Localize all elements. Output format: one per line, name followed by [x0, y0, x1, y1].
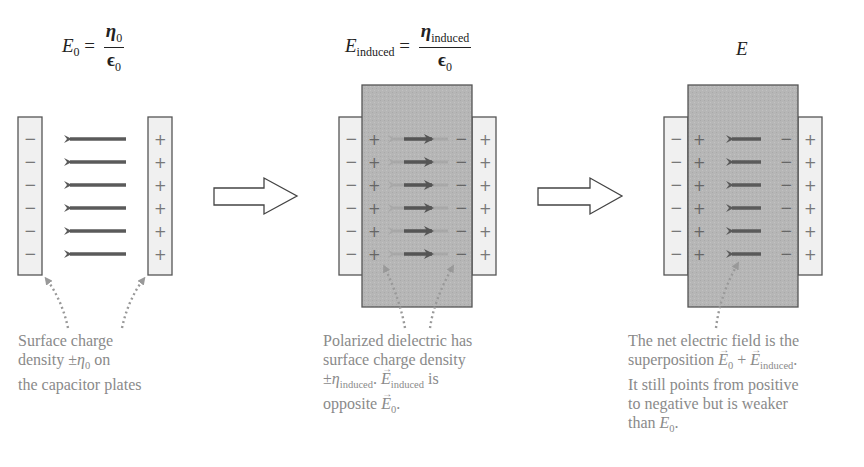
panel-induced: −−− −−− +++ +++ +++ +++ −−− −−−	[339, 85, 496, 328]
svg-text:+: +	[368, 131, 381, 149]
svg-text:−: −	[455, 153, 468, 171]
svg-text:−: −	[345, 245, 358, 263]
svg-text:−: −	[670, 153, 683, 171]
formula-e-induced: Einduced = ηinduced ϵ0	[345, 20, 471, 75]
svg-text:−: −	[24, 176, 37, 194]
svg-text:+: +	[479, 246, 492, 264]
svg-text:+: +	[154, 246, 167, 264]
svg-text:+: +	[479, 154, 492, 172]
svg-text:+: +	[154, 200, 167, 218]
panel-net: −−− −−− +++ +++ +++ +++ −−− −−−	[664, 85, 822, 328]
svg-text:−: −	[670, 222, 683, 240]
fraction: ηinduced ϵ0	[419, 20, 471, 75]
dielectric-slab	[688, 85, 798, 307]
panel-vacuum: −−− −−− +++ +++	[18, 117, 172, 328]
caption-vacuum: Surface charge density ±η0 on the capaci…	[18, 331, 142, 394]
svg-text:+: +	[154, 131, 167, 149]
svg-text:+: +	[804, 131, 817, 149]
transition-arrow-icon	[214, 178, 297, 214]
svg-text:+: +	[368, 177, 381, 195]
svg-text:+: +	[804, 200, 817, 218]
svg-text:+: +	[693, 200, 706, 218]
svg-text:+: +	[368, 246, 381, 264]
svg-text:−: −	[780, 176, 793, 194]
caption-net: The net electric field is the superposit…	[628, 331, 799, 438]
svg-text:+: +	[693, 154, 706, 172]
field-arrows-e0	[70, 139, 126, 254]
svg-text:−: −	[24, 130, 37, 148]
svg-text:−: −	[455, 130, 468, 148]
dielectric-slab	[362, 85, 472, 307]
svg-text:+: +	[693, 223, 706, 241]
caption-induced: Polarized dielectric has surface charge …	[323, 331, 472, 419]
formula-e-net: E	[736, 38, 748, 60]
svg-text:−: −	[345, 222, 358, 240]
svg-text:−: −	[780, 199, 793, 217]
svg-text:−: −	[455, 245, 468, 263]
svg-text:+: +	[693, 177, 706, 195]
svg-text:−: −	[780, 245, 793, 263]
svg-text:−: −	[24, 245, 37, 263]
svg-text:+: +	[693, 131, 706, 149]
svg-text:−: −	[24, 222, 37, 240]
svg-text:−: −	[24, 153, 37, 171]
svg-text:+: +	[693, 246, 706, 264]
formula-e0: E0 = η0 ϵ0	[62, 20, 124, 75]
fraction: η0 ϵ0	[104, 20, 124, 75]
svg-text:−: −	[455, 222, 468, 240]
svg-text:+: +	[154, 177, 167, 195]
svg-text:+: +	[479, 131, 492, 149]
svg-text:−: −	[670, 176, 683, 194]
svg-text:+: +	[368, 154, 381, 172]
svg-text:−: −	[455, 176, 468, 194]
svg-text:−: −	[345, 199, 358, 217]
svg-text:+: +	[804, 223, 817, 241]
transition-arrow-icon	[538, 178, 622, 214]
svg-text:+: +	[368, 200, 381, 218]
svg-text:+: +	[804, 154, 817, 172]
svg-text:+: +	[804, 177, 817, 195]
svg-text:+: +	[368, 223, 381, 241]
svg-text:−: −	[780, 130, 793, 148]
svg-text:+: +	[154, 154, 167, 172]
svg-text:+: +	[479, 223, 492, 241]
svg-text:−: −	[24, 199, 37, 217]
svg-text:−: −	[345, 176, 358, 194]
svg-text:−: −	[780, 222, 793, 240]
svg-text:−: −	[455, 199, 468, 217]
svg-text:+: +	[154, 223, 167, 241]
svg-text:−: −	[670, 199, 683, 217]
svg-text:−: −	[780, 153, 793, 171]
svg-text:−: −	[670, 245, 683, 263]
svg-text:−: −	[345, 130, 358, 148]
svg-text:+: +	[479, 177, 492, 195]
svg-text:+: +	[479, 200, 492, 218]
svg-text:+: +	[804, 246, 817, 264]
svg-text:−: −	[345, 153, 358, 171]
pointer-dots	[47, 280, 143, 328]
svg-text:−: −	[670, 130, 683, 148]
